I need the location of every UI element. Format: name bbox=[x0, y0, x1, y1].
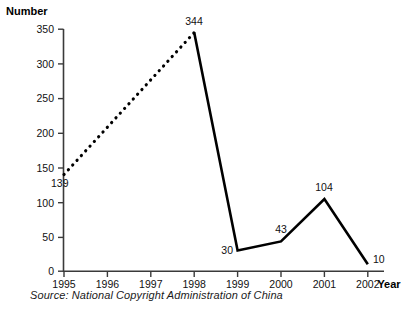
y-tick-label: 300 bbox=[36, 58, 54, 70]
data-label-1995: 139 bbox=[51, 177, 69, 189]
y-tick-label: 0 bbox=[48, 265, 54, 277]
data-line-dotted-segment bbox=[64, 33, 194, 175]
data-label-2002: 10 bbox=[373, 253, 385, 265]
y-tick-marks bbox=[58, 29, 64, 271]
x-tick-marks bbox=[64, 271, 368, 277]
data-point-labels: 139 344 30 43 104 10 bbox=[51, 15, 385, 265]
chart-container: 350 300 250 200 150 100 50 0 1995 1996 1… bbox=[0, 0, 419, 309]
line-chart-svg: 350 300 250 200 150 100 50 0 1995 1996 1… bbox=[0, 0, 419, 309]
data-label-2001: 104 bbox=[315, 181, 333, 193]
y-tick-label: 250 bbox=[36, 92, 54, 104]
axes-group bbox=[64, 29, 385, 272]
y-tick-label: 50 bbox=[42, 231, 54, 243]
y-tick-labels: 350 300 250 200 150 100 50 0 bbox=[36, 23, 54, 277]
x-axis-title: Year bbox=[377, 278, 401, 290]
x-tick-label: 2001 bbox=[313, 278, 337, 290]
y-tick-label: 150 bbox=[36, 162, 54, 174]
data-label-1999: 30 bbox=[221, 244, 233, 256]
y-tick-label: 100 bbox=[36, 197, 54, 209]
x-tick-label: 2002 bbox=[356, 278, 380, 290]
y-axis-title: Number bbox=[6, 5, 48, 17]
data-label-1998: 344 bbox=[185, 15, 203, 27]
y-tick-label: 200 bbox=[36, 127, 54, 139]
data-label-2000: 43 bbox=[275, 223, 287, 235]
source-note: Source: National Copyright Administratio… bbox=[30, 289, 283, 301]
y-tick-label: 350 bbox=[36, 23, 54, 35]
